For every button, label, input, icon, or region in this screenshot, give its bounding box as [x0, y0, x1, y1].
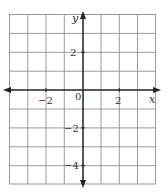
y-axis-label: y	[71, 12, 79, 25]
coordinate-grid: y x 0 −2 2 2 −2 −4	[0, 0, 166, 193]
x-axis-left-arrow-icon	[3, 87, 11, 93]
x-axis-label: x	[149, 93, 156, 106]
x-tick-label-2: 2	[115, 95, 121, 106]
y-tick-label-neg4: −4	[64, 160, 79, 171]
y-tick-label-2: 2	[70, 47, 76, 58]
y-tick-label-neg2: −2	[64, 123, 79, 134]
x-tick-label-neg2: −2	[38, 95, 53, 106]
origin-label: 0	[75, 91, 81, 102]
